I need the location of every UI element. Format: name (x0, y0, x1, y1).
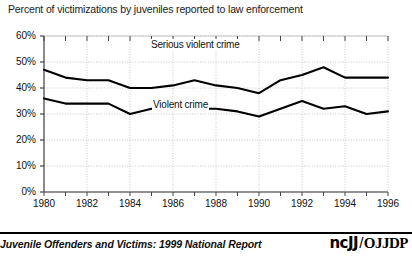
gridlines (44, 36, 388, 192)
series-label-serious-violent-crime: Serious violent crime (150, 39, 241, 50)
y-axis-tick-label: 30% (2, 108, 36, 119)
y-axis-tick-label: 50% (2, 56, 36, 67)
y-axis-tick-label: 20% (2, 134, 36, 145)
line-chart-svg (0, 20, 412, 220)
x-axis-tick-label: 1982 (70, 198, 104, 209)
chart-title: Percent of victimizations by juveniles r… (8, 3, 303, 16)
axis-ticks (40, 36, 388, 196)
footer-citation: Juvenile Offenders and Victims: 1999 Nat… (0, 238, 261, 250)
x-axis-tick-label: 1988 (199, 198, 233, 209)
x-axis-tick-label: 1984 (113, 198, 147, 209)
series-label-violent-crime: Violent crime (152, 99, 209, 110)
chart-figure: Percent of victimizations by juveniles r… (0, 0, 412, 259)
plot-area: 0%10%20%30%40%50%60% 1980198219841986198… (0, 20, 412, 220)
y-axis-tick-label: 60% (2, 30, 36, 41)
x-axis-tick-label: 1992 (285, 198, 319, 209)
ncjj-ojjdp-logo: ncJJ/OJJDP (329, 234, 408, 252)
y-axis-tick-label: 10% (2, 160, 36, 171)
logo-ojjdp-text: OJJDP (364, 235, 408, 251)
y-axis-tick-label: 40% (2, 82, 36, 93)
x-axis-tick-label: 1990 (242, 198, 276, 209)
x-axis-tick-label: 1996 (371, 198, 405, 209)
x-axis-tick-label: 1980 (27, 198, 61, 209)
y-axis-tick-label: 0% (2, 186, 36, 197)
x-axis-tick-label: 1986 (156, 198, 190, 209)
x-axis-tick-label: 1994 (328, 198, 362, 209)
logo-ncjj-text: ncJJ (329, 234, 358, 252)
data-series (44, 67, 388, 116)
